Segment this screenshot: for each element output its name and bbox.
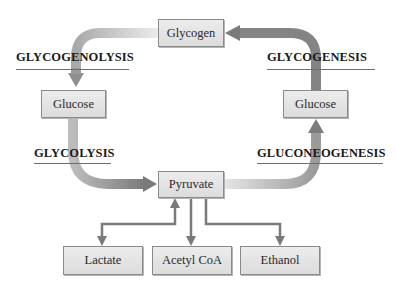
node-label: Ethanol [261,253,300,268]
node-acetyl-coa: Acetyl CoA [152,246,232,275]
node-label: Pyruvate [169,177,213,192]
label-glycogenesis: GLYCOGENESIS [267,50,367,65]
arrowhead-to-lactate [97,236,107,246]
node-glucose-left: Glucose [41,90,106,118]
pyruvate-lactate-connector [102,207,175,236]
arrowhead-to-pyruvate [170,198,180,208]
label-glycolysis: GLYCOLYSIS [34,146,115,161]
node-label: Glycogen [167,26,216,41]
metabolism-diagram: Glycogen Glucose Glucose Pyruvate Lactat… [0,0,396,289]
underline-glycolysis [34,163,111,164]
node-label: Glucose [53,97,94,112]
label-gluconeogenesis: GLUCONEOGENESIS [257,146,386,161]
node-ethanol: Ethanol [240,246,320,275]
underline-glycogenolysis [16,69,129,70]
underline-glycogenesis [267,69,375,70]
underline-gluconeogenesis [257,163,383,164]
node-lactate: Lactate [63,246,143,275]
node-glucose-right: Glucose [283,90,348,118]
node-label: Glucose [295,97,336,112]
arrowhead-to-ethanol [275,236,285,246]
pyruvate-ethanol-connector [206,197,280,237]
node-glycogen: Glycogen [158,19,224,47]
label-glycogenolysis: GLYCOGENOLYSIS [16,50,134,65]
node-label: Acetyl CoA [162,253,222,268]
arrowhead-to-acetylcoa [186,236,196,246]
node-pyruvate: Pyruvate [158,171,224,198]
node-label: Lactate [85,253,122,268]
